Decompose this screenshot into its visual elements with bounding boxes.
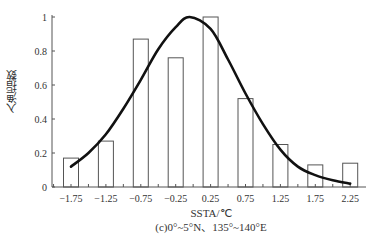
x-tick-label: 0.75 (237, 193, 255, 204)
y-tick-label: 0 (42, 182, 47, 193)
bar (238, 99, 253, 187)
bar (203, 17, 218, 187)
bar (168, 58, 183, 187)
y-tick-label: 0.6 (35, 80, 48, 91)
y-tick-label: 0.4 (35, 114, 48, 125)
x-tick-label: −0.25 (164, 193, 187, 204)
x-axis-title: SSTA/℃ (190, 207, 231, 219)
x-tick-label: −1.25 (94, 193, 117, 204)
y-axis-title: 入渔指数 (6, 70, 20, 114)
x-tick-label: −1.75 (59, 193, 82, 204)
bar (98, 141, 113, 187)
x-tick-label: −0.75 (129, 193, 152, 204)
bar (133, 39, 148, 187)
x-tick-label: 1.75 (307, 193, 325, 204)
y-tick-label: 1 (42, 12, 47, 23)
y-tick-label: 0.2 (35, 148, 48, 159)
y-tick-label: 0.8 (35, 46, 48, 57)
chart: 00.20.40.60.81−1.75−1.25−0.75−0.250.250.… (0, 0, 386, 241)
x-tick-label: 2.25 (341, 193, 359, 204)
x-tick-label: 1.25 (272, 193, 290, 204)
chart-caption: (c)0°~5°N、135°~140°E (155, 221, 267, 234)
x-tick-label: 0.25 (202, 193, 220, 204)
